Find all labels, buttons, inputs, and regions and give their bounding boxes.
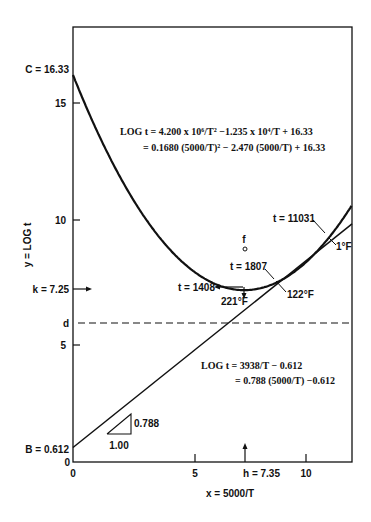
- k-label: k = 7.25: [33, 284, 70, 295]
- x-axis-title: x = 5000/T: [206, 488, 254, 499]
- c-intercept-label: C = 16.33: [25, 64, 69, 75]
- h-label: h = 7.35: [243, 468, 280, 479]
- y-tick-0: 0: [64, 457, 70, 468]
- t-mid-temp-leader: [276, 281, 286, 292]
- slope-rise-label: 0.788: [134, 418, 159, 429]
- chart: C = 16.33 15 10 5 0 k = 7.25 d B = 0.612…: [0, 0, 371, 522]
- t-mid-label: t = 1807: [230, 261, 267, 272]
- t-high-temp-label: 1°F: [336, 241, 352, 252]
- lin-equation-line1: LOG t = 3938/T − 0.612: [201, 360, 302, 371]
- f-point-marker: [243, 247, 247, 251]
- t-mid-temp-label: 122°F: [287, 289, 314, 300]
- h-arrow-icon: [243, 443, 248, 462]
- x-tick-10: 10: [300, 468, 312, 479]
- y-axis-ticks: [73, 103, 80, 345]
- y-axis-title: y = LOG t: [22, 222, 33, 267]
- quad-equation-line1: LOG t = 4.200 x 10⁶/T² −1.235 x 10⁴/T + …: [120, 126, 313, 137]
- lin-equation-line2: = 0.788 (5000/T) −0.612: [235, 375, 335, 387]
- x-tick-0: 0: [70, 468, 76, 479]
- x-axis-ticks: [195, 454, 306, 462]
- x-tick-5: 5: [192, 468, 198, 479]
- b-intercept-label: B = 0.612: [25, 444, 69, 455]
- d-label: d: [63, 318, 69, 329]
- k-arrow-icon: [73, 287, 92, 292]
- linear-line: [73, 224, 352, 448]
- y-tick-5: 5: [60, 340, 66, 351]
- y-tick-10: 10: [55, 215, 67, 226]
- f-label: f: [242, 234, 246, 245]
- y-tick-15: 15: [55, 98, 67, 109]
- t-min-temp-label: 221°F: [221, 296, 248, 307]
- t-min-label: t = 1408: [178, 282, 215, 293]
- plot-frame: [73, 27, 352, 462]
- slope-run-label: 1.00: [109, 440, 129, 451]
- quad-equation-line2: = 0.1680 (5000/T)² − 2.470 (5000/T) + 16…: [143, 142, 325, 154]
- t-high-label: t = 11031: [273, 213, 315, 224]
